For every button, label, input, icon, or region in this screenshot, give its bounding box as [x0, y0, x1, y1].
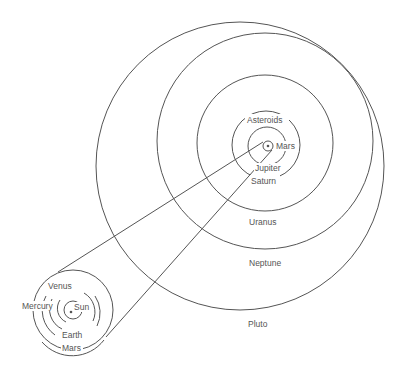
label-pluto: Pluto — [248, 319, 268, 329]
label-venus: Venus — [48, 281, 72, 291]
label-jupiter: Jupiter — [255, 163, 281, 173]
earth-orbit-arc-right — [95, 296, 100, 326]
zoom-line-top — [58, 142, 263, 272]
solar-system-diagram: Asteroids Mars Jupiter Saturn Uranus Nep… — [0, 0, 409, 368]
zoom-line-bottom — [106, 150, 272, 337]
label-mars-outer: Mars — [276, 141, 295, 151]
label-neptune: Neptune — [249, 258, 281, 268]
label-saturn: Saturn — [251, 176, 276, 186]
sun-dot — [70, 311, 73, 314]
label-uranus: Uranus — [249, 217, 276, 227]
label-mars-inner: Mars — [62, 343, 81, 353]
label-earth: Earth — [62, 330, 83, 340]
label-sun: Sun — [74, 302, 89, 312]
mercury-orbit-arc — [57, 300, 66, 322]
label-mercury: Mercury — [22, 301, 53, 311]
label-asteroids: Asteroids — [247, 115, 282, 125]
uranus-orbit — [197, 75, 333, 211]
pluto-orbit — [96, 22, 384, 310]
sun-dot-outer — [267, 145, 270, 148]
